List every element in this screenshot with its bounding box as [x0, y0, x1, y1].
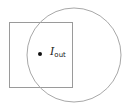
point-marker [38, 52, 42, 56]
point-label: Iout [50, 45, 66, 59]
label-subscript: out [54, 51, 65, 59]
